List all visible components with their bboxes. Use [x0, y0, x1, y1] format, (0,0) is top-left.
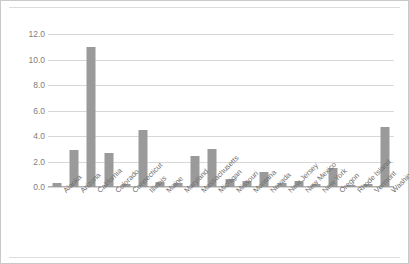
bar-slot: [83, 34, 100, 187]
y-axis-tick-label: 6.0: [5, 106, 45, 115]
plot-area: [48, 34, 394, 187]
x-axis-tick-label: Maine: [165, 189, 170, 194]
x-axis-tick-label: Vermont: [373, 189, 378, 194]
x-axis-tick-label: Rhode Island: [356, 189, 361, 194]
y-axis-tick-label: 12.0: [5, 30, 45, 39]
bar-slot: [117, 34, 134, 187]
x-axis-tick-label: New York: [321, 189, 326, 194]
x-axis-tick-label: Illinois: [148, 189, 153, 194]
bar-chart-figure: 0.02.04.06.08.010.012.0 AlaskaArizonaCal…: [0, 0, 409, 264]
bar-slot: [65, 34, 82, 187]
x-axis-tick-label: Massachusetts: [200, 189, 205, 194]
bar-slot: [256, 34, 273, 187]
bar-slot: [290, 34, 307, 187]
bar-slot: [238, 34, 255, 187]
x-axis-tick-label: Colorado: [114, 189, 119, 194]
x-axis-tick-label: New Mexico: [304, 189, 309, 194]
x-axis-category-labels: AlaskaArizonaCaliforniaColoradoConnectic…: [48, 189, 394, 261]
top-divider: [9, 7, 400, 8]
x-axis-tick-label: New Jersey: [287, 189, 292, 194]
bar-slot: [135, 34, 152, 187]
x-axis-tick-label: Maryland: [183, 189, 188, 194]
bottom-divider: [9, 257, 400, 258]
x-axis-tick-label: Arizona: [79, 189, 84, 194]
x-axis-tick-label: Alaska: [62, 189, 67, 194]
y-axis-tick-labels: 0.02.04.06.08.010.012.0: [1, 34, 45, 187]
y-axis-tick-label: 0.0: [5, 183, 45, 192]
y-axis-tick-label: 2.0: [5, 157, 45, 166]
bar-slot: [186, 34, 203, 187]
y-axis-tick-label: 8.0: [5, 81, 45, 90]
bar-slot: [100, 34, 117, 187]
x-axis-tick-label: Connecticut: [131, 189, 136, 194]
x-axis-tick-label: Oregon: [338, 189, 343, 194]
bar-slot: [359, 34, 376, 187]
y-axis-tick-label: 10.0: [5, 55, 45, 64]
x-axis-tick-label: Missouri: [235, 189, 240, 194]
x-axis-tick-label: Michigan: [217, 189, 222, 194]
bar-slot: [204, 34, 221, 187]
y-axis-tick-label: 4.0: [5, 132, 45, 141]
bar-slot: [48, 34, 65, 187]
bar-slot: [273, 34, 290, 187]
bar-slot: [169, 34, 186, 187]
bar-slot: [342, 34, 359, 187]
bar[interactable]: [87, 47, 96, 187]
x-axis-tick-label: California: [96, 189, 101, 194]
x-axis-tick-label: Nevada: [269, 189, 274, 194]
bar[interactable]: [52, 183, 61, 187]
x-axis-tick-label: Washington: [390, 189, 395, 194]
bars-layer: [48, 34, 394, 187]
x-axis-tick-label: Montana: [252, 189, 257, 194]
